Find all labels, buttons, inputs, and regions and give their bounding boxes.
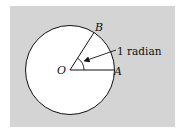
- annotation-label: 1 radian: [117, 45, 162, 57]
- point-label-a: A: [113, 65, 122, 78]
- point-label-o: O: [57, 64, 66, 77]
- point-label-b: B: [94, 21, 103, 34]
- radian-diagram: O A B 1 radian: [0, 0, 183, 140]
